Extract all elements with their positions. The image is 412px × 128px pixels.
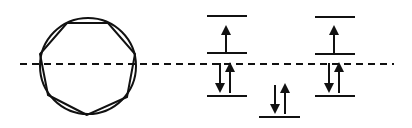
energy-levels	[207, 16, 355, 117]
frost-circle-diagram	[0, 0, 412, 128]
electrons	[220, 30, 339, 114]
frost-circle	[40, 18, 136, 115]
